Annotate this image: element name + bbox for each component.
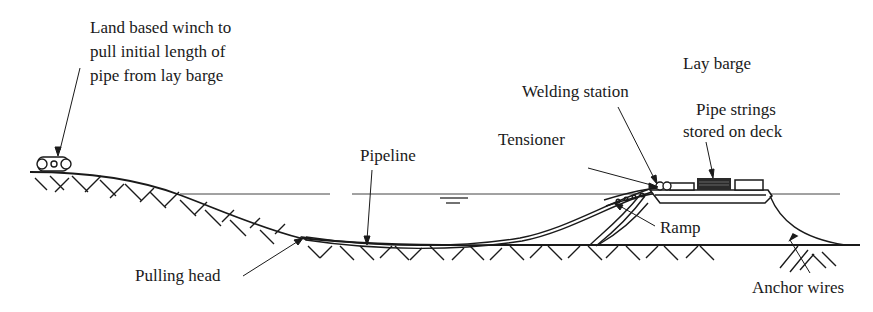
shore-ground: [30, 172, 300, 244]
pipeline: [306, 185, 664, 248]
winch-label-line1: Land based winch to: [90, 16, 231, 39]
welding-station-label: Welding station: [522, 80, 629, 103]
winch-label-line3: pipe from lay barge: [90, 64, 223, 87]
winch-label-line2: pull initial length of: [90, 40, 226, 63]
seabed: [300, 238, 860, 272]
pulling-head-label: Pulling head: [135, 264, 220, 287]
tensioner-label: Tensioner: [498, 128, 565, 151]
ramp: [590, 188, 664, 246]
pipe-strings: [697, 178, 731, 190]
pipeline-installation-diagram: Land based winch to pull initial length …: [0, 0, 873, 312]
tensioner: [656, 182, 671, 190]
anchor-wires-label: Anchor wires: [752, 276, 844, 299]
pipeline-label: Pipeline: [360, 144, 416, 167]
land-based-winch: [37, 157, 71, 171]
ramp-label: Ramp: [660, 216, 701, 239]
pipe-strings-label-line1: Pipe strings: [696, 98, 776, 121]
lay-barge-label: Lay barge: [683, 52, 751, 75]
pipe-strings-label-line2: stored on deck: [683, 120, 782, 143]
